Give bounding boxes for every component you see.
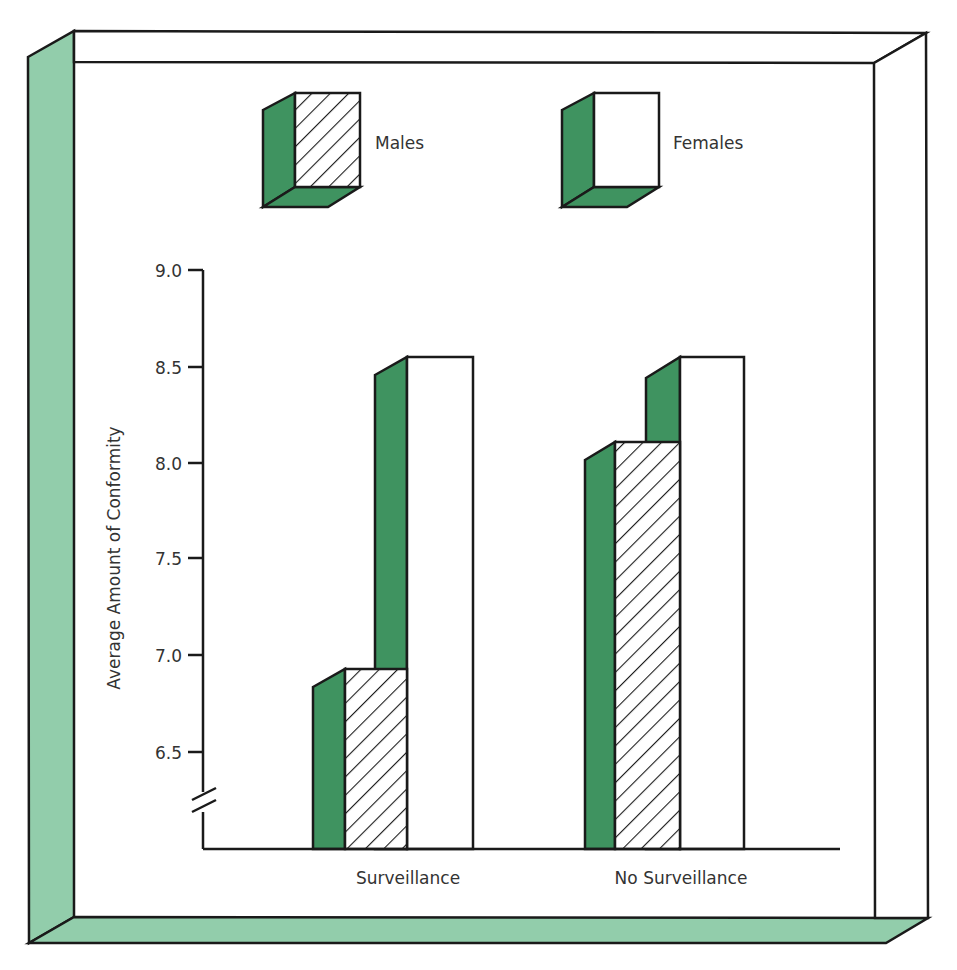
bar-males-no-surveillance <box>615 442 680 849</box>
y-axis: 9.0 8.5 8.0 7.5 7.0 6.5 Average Amount o… <box>104 261 216 849</box>
bar-males-surveillance-side <box>313 669 345 849</box>
bar-group-no-surveillance <box>585 357 744 849</box>
legend-item-females: Females <box>562 93 743 207</box>
bar-group-surveillance <box>313 357 473 849</box>
y-tick-6-5: 6.5 <box>155 743 182 763</box>
x-label-no-surveillance: No Surveillance <box>615 868 748 888</box>
bar-males-no-surveillance-side <box>585 442 615 849</box>
x-axis: Surveillance No Surveillance <box>203 849 840 888</box>
y-axis-label: Average Amount of Conformity <box>104 426 124 689</box>
bar-females-no-surveillance <box>680 357 744 849</box>
y-tick-7-0: 7.0 <box>155 646 182 666</box>
bar-females-surveillance <box>407 357 473 849</box>
y-tick-8-5: 8.5 <box>155 358 182 378</box>
legend-item-males: Males <box>263 93 424 207</box>
frame <box>28 31 928 943</box>
bar-males-surveillance <box>345 669 407 849</box>
legend-label-males: Males <box>375 133 424 153</box>
x-label-surveillance: Surveillance <box>356 868 460 888</box>
frame-right-panel <box>874 33 928 918</box>
chart-canvas: Males Females 9.0 8.5 8.0 7.5 7.0 6.5 Av… <box>0 0 957 970</box>
frame-left-panel <box>28 31 74 943</box>
y-tick-7-5: 7.5 <box>155 549 182 569</box>
legend-label-females: Females <box>673 133 743 153</box>
frame-bottom-panel <box>29 917 928 943</box>
legend: Males Females <box>263 93 743 207</box>
frame-top-panel <box>74 31 926 63</box>
y-tick-9-0: 9.0 <box>155 261 182 281</box>
y-tick-8-0: 8.0 <box>155 454 182 474</box>
